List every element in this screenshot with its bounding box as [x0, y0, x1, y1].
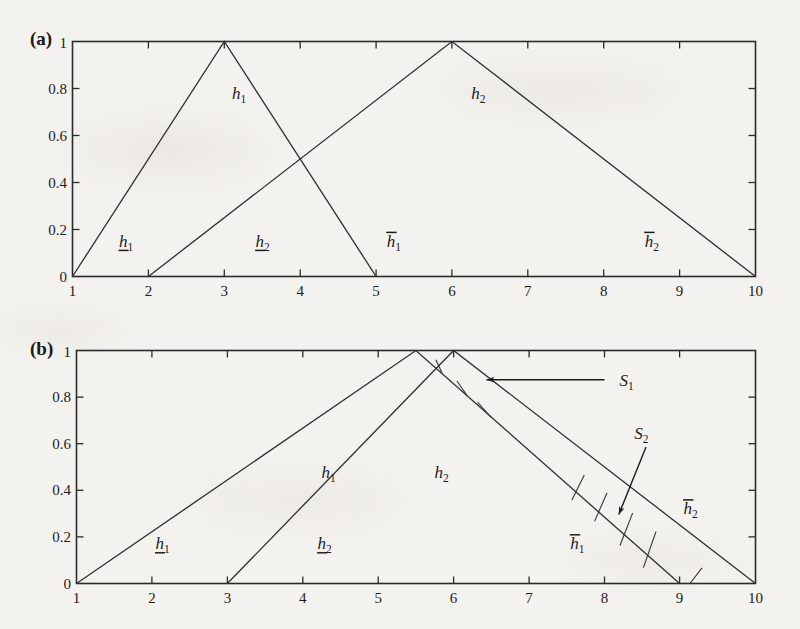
svg-text:8: 8 — [600, 283, 608, 299]
panel-a-annotation-h2-lower-label: h2 — [255, 232, 270, 253]
svg-text:6: 6 — [448, 283, 456, 299]
panel-b-annotation-h2-label: h2 — [435, 463, 450, 484]
svg-text:0.6: 0.6 — [52, 436, 71, 452]
panel-a-xticks-bottom — [148, 270, 679, 277]
svg-text:9: 9 — [676, 283, 684, 299]
panel-b-plot: 1 2 3 4 5 6 7 8 9 10 0 0.2 0.4 0.6 0.8 1 — [52, 344, 763, 607]
panel-b-axes-box — [77, 351, 756, 584]
svg-text:1: 1 — [64, 344, 72, 360]
panel-a-yticks — [73, 89, 756, 230]
svg-text:0.6: 0.6 — [48, 128, 67, 144]
svg-text:2: 2 — [145, 283, 153, 299]
svg-text:h1: h1 — [570, 534, 585, 555]
svg-text:0.4: 0.4 — [48, 175, 67, 191]
svg-text:7: 7 — [525, 590, 533, 606]
panel-b-annotation-h1-label: h1 — [321, 463, 336, 484]
svg-text:1: 1 — [69, 283, 77, 299]
panel-b-series-h2 — [227, 351, 755, 584]
svg-text:7: 7 — [524, 283, 532, 299]
svg-text:3: 3 — [221, 283, 229, 299]
svg-text:0.2: 0.2 — [48, 222, 67, 238]
svg-text:6: 6 — [450, 590, 458, 606]
svg-text:h1: h1 — [387, 232, 402, 253]
svg-text:0.8: 0.8 — [52, 389, 71, 405]
panel-b-annotation-h2-lower-label: h2 — [317, 534, 332, 555]
panel-b-callout-s1: S1 — [487, 371, 635, 392]
svg-text:0.8: 0.8 — [48, 81, 67, 97]
svg-text:5: 5 — [372, 283, 380, 299]
panel-a-ytick-labels: 0 0.2 0.4 0.6 0.8 1 — [48, 35, 67, 285]
panel-b-yticks — [77, 397, 756, 537]
s2-label: S2 — [634, 424, 649, 445]
panel-a-annotation-h1-label: h1 — [232, 84, 247, 105]
panel-a-annotation-h2-label: h2 — [471, 84, 486, 105]
panel-a-series-h2 — [148, 42, 755, 277]
panel-b-annotation-h2-upper-label: h2 — [683, 499, 698, 520]
svg-text:4: 4 — [296, 283, 304, 299]
svg-text:3: 3 — [224, 590, 232, 606]
svg-text:2: 2 — [148, 590, 156, 606]
figure-svg: 1 2 3 4 5 6 7 8 9 10 0 0.2 0.4 0.6 0.8 1 — [0, 0, 800, 629]
svg-text:1: 1 — [60, 35, 68, 51]
svg-text:5: 5 — [374, 590, 382, 606]
svg-text:h2: h2 — [471, 84, 486, 105]
svg-text:8: 8 — [601, 590, 609, 606]
panel-a-annotation-h1-upper-label: h1 — [386, 232, 401, 253]
panel-b-hatch-s1 — [436, 360, 492, 418]
panel-a-annotation-h2-upper-label: h2 — [644, 232, 659, 253]
s1-label: S1 — [620, 371, 635, 392]
panel-b-callout-s2: S2 — [619, 424, 649, 515]
panel-a-plot: 1 2 3 4 5 6 7 8 9 10 0 0.2 0.4 0.6 0.8 1 — [48, 35, 763, 300]
svg-text:0: 0 — [64, 576, 72, 592]
svg-text:1: 1 — [73, 590, 81, 606]
figure-container: (a) (b) — [0, 0, 800, 629]
panel-b-annotation-h1-lower-label: h1 — [155, 534, 170, 555]
svg-text:h1: h1 — [232, 84, 247, 105]
panel-a-tag: (a) — [30, 28, 52, 50]
panel-b-ytick-labels: 0 0.2 0.4 0.6 0.8 1 — [52, 344, 71, 592]
panel-b-tag: (b) — [30, 338, 53, 360]
svg-text:10: 10 — [748, 590, 763, 606]
svg-text:h2: h2 — [645, 232, 660, 253]
svg-text:4: 4 — [299, 590, 307, 606]
panel-b-annotation-h1-upper-label: h1 — [570, 534, 585, 555]
svg-text:9: 9 — [676, 590, 684, 606]
svg-text:0.4: 0.4 — [52, 482, 71, 498]
svg-text:h2: h2 — [435, 463, 450, 484]
svg-text:10: 10 — [748, 283, 763, 299]
panel-b-xtick-labels: 1 2 3 4 5 6 7 8 9 10 — [73, 590, 763, 606]
svg-text:0.2: 0.2 — [52, 529, 71, 545]
svg-text:h2: h2 — [684, 499, 699, 520]
svg-text:h1: h1 — [321, 463, 336, 484]
panel-a-annotation-h1-lower-label: h1 — [119, 232, 134, 253]
panel-b-xticks-top — [152, 351, 680, 358]
panel-a-xtick-labels: 1 2 3 4 5 6 7 8 9 10 — [69, 283, 763, 299]
svg-text:0: 0 — [60, 269, 68, 285]
